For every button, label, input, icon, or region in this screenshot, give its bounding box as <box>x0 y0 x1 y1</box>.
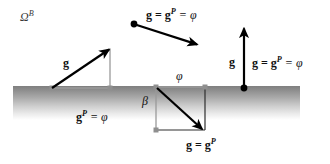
box-bottom-label-sup: P <box>211 137 216 146</box>
right-full-label-base: g = g <box>252 56 277 70</box>
domain-subscript: B <box>29 9 34 18</box>
left-vector-label-text: g <box>63 56 69 70</box>
box-bottom-label: g = gP <box>186 138 216 151</box>
box-phi-label-text: φ <box>176 69 183 83</box>
box-beta-label: β <box>142 95 148 107</box>
left-ground-label: gP = φ <box>76 110 108 123</box>
figure-canvas <box>0 0 330 164</box>
box-phi-label: φ <box>176 70 183 82</box>
physics-vector-figure: ΩB g gP = φ g = gP = φ φ β g = gP g g = … <box>0 0 330 164</box>
domain-symbol: Ω <box>20 10 29 24</box>
box-beta-label-text: β <box>142 94 148 108</box>
left-vector-label: g <box>63 57 69 69</box>
right-full-label: g = gP = φ <box>252 56 303 69</box>
top-vector-label: g = gP = φ <box>146 8 197 21</box>
top-vector-label-tail: = φ <box>176 8 197 22</box>
right-vector-label-text: g <box>229 55 235 69</box>
box-corner-node-bl <box>154 128 159 133</box>
domain-label: ΩB <box>20 10 34 23</box>
box-corner-node-tr <box>203 85 208 90</box>
left-gradient-arrow <box>52 50 109 89</box>
right-full-label-tail: = φ <box>282 56 303 70</box>
left-foot-node <box>108 86 113 91</box>
box-bottom-label-base: g = g <box>186 138 211 152</box>
right-vector-label: g <box>229 56 235 68</box>
top-vector-label-base: g = g <box>146 8 171 22</box>
top-gradient-arrow <box>136 25 197 45</box>
left-ground-label-tail: = φ <box>87 110 108 124</box>
